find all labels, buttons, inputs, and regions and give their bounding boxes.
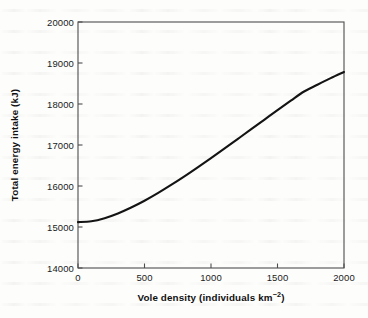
x-tick-label-500: 500 [136,272,152,283]
figure-page: 20000 19000 18000 17000 16000 15000 1400… [0,0,368,318]
y-tick-label-17000: 17000 [34,140,74,151]
y-axis-title: Total energy intake (kJ) [9,89,20,201]
x-tick-label-1000: 1000 [200,272,222,283]
y-tick-label-16000: 16000 [34,181,74,192]
x-axis-title-close: ) [281,292,284,303]
x-tick-label-0: 0 [75,272,80,283]
x-tick-label-2000: 2000 [333,272,355,283]
x-axis-title: Vole density (individuals km−2) [137,292,284,303]
chart-figure: 20000 19000 18000 17000 16000 15000 1400… [0,0,368,318]
y-tick-label-14000: 14000 [34,263,74,274]
y-tick-label-20000: 20000 [34,17,74,28]
data-curve-total-energy-intake [78,72,344,222]
x-tick-label-1500: 1500 [267,272,289,283]
plot-frame [78,22,344,268]
x-axis-title-main: Vole density (individuals km [137,292,272,303]
y-tick-label-15000: 15000 [34,222,74,233]
y-tick-label-19000: 19000 [34,58,74,69]
x-axis-title-exponent: −2 [273,290,282,299]
y-tick-label-18000: 18000 [34,99,74,110]
